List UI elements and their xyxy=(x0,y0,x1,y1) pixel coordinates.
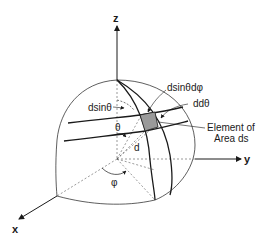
element-label-line1: Element of xyxy=(207,122,255,133)
x-axis xyxy=(19,196,57,219)
leader-lines xyxy=(113,90,205,128)
dsintheta-dphi-label: dsinθdφ xyxy=(167,82,203,93)
spherical-area-element-diagram: z y x dsinθdφ ddθ dsinθ θ φ d Element of… xyxy=(0,0,267,245)
x-axis-label: x xyxy=(12,223,19,235)
latitude-bands xyxy=(64,107,188,141)
dsintheta-arc xyxy=(117,100,134,110)
sphere-outline xyxy=(56,80,195,204)
area-element-ds xyxy=(140,112,158,131)
phi-label: φ xyxy=(111,177,118,188)
d-dtheta-label: ddθ xyxy=(193,98,210,109)
dsintheta-label: dsinθ xyxy=(88,102,112,113)
theta-label: θ xyxy=(115,122,121,133)
y-axis-label: y xyxy=(244,153,251,165)
element-label-line2: Area ds xyxy=(214,133,248,144)
phi-arc xyxy=(102,168,126,174)
meridians xyxy=(117,80,172,200)
radius-label: d xyxy=(134,142,140,153)
dashed-guides xyxy=(57,80,195,200)
z-axis-label: z xyxy=(113,12,119,24)
